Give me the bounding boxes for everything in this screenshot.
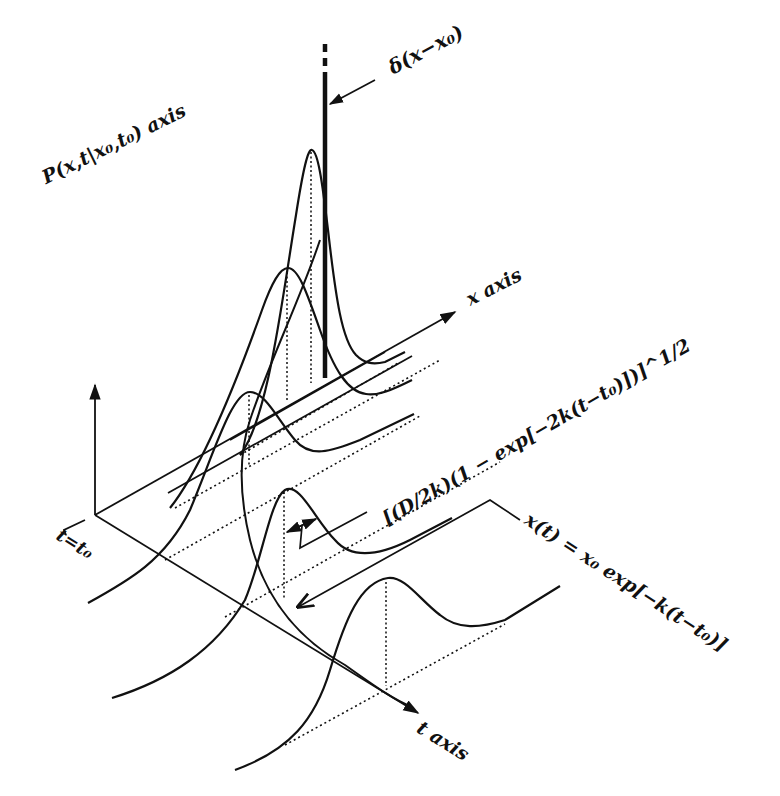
baselines bbox=[165, 352, 505, 745]
delta-leader bbox=[330, 80, 375, 104]
delta-spike bbox=[325, 44, 375, 378]
diagram-canvas bbox=[0, 0, 780, 796]
gaussian-5 bbox=[235, 578, 560, 770]
peak-droplines bbox=[249, 152, 386, 686]
gaussian-3 bbox=[88, 392, 414, 603]
